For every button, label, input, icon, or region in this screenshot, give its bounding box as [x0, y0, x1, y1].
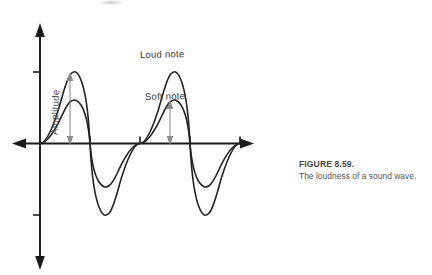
y-axis-arrow-down-icon [35, 256, 45, 270]
amplitude-arrow-soft [167, 100, 174, 145]
y-axis [33, 23, 45, 270]
y-axis-arrow-up-icon [35, 23, 45, 37]
figure-caption-title: FIGURE 8.59. [299, 158, 427, 170]
amplitude-label: Amplitude [49, 89, 62, 135]
x-axis-arrow-right-icon [240, 139, 254, 149]
amplitude-arrow-loud [67, 72, 74, 145]
figure-caption: FIGURE 8.59. The loudness of a sound wav… [299, 158, 427, 182]
figure-caption-text: The loudness of a sound wave. [299, 170, 427, 182]
loud-note-label: Loud note [140, 48, 185, 60]
figure-container: Amplitude Loud note Soft note FIGURE 8.5… [0, 0, 432, 275]
x-axis-arrow-left-icon [12, 139, 26, 149]
sound-wave-chart: Amplitude Loud note Soft note [0, 0, 275, 275]
soft-note-label: Soft note [145, 90, 185, 102]
